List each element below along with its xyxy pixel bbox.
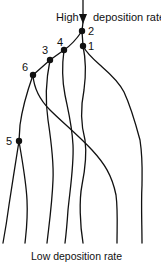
deposition-rate-label: deposition rate <box>93 11 161 23</box>
branch-5-left <box>3 141 19 243</box>
node-2-label: 2 <box>88 25 94 37</box>
branch-6-to-5 <box>19 75 33 141</box>
branch-4 <box>63 50 74 243</box>
node-1 <box>80 43 86 49</box>
branch-6-crossing <box>33 75 117 243</box>
branch-1-right <box>83 46 142 243</box>
node-1-label: 1 <box>88 40 94 52</box>
node-2 <box>79 28 85 34</box>
high-label: High <box>56 11 79 23</box>
deposition-tree-diagram: High deposition rate 2 1 4 3 6 5 Low dep… <box>0 0 161 264</box>
node-4-label: 4 <box>57 36 63 48</box>
node-5 <box>16 138 22 144</box>
node-3-label: 3 <box>42 44 48 56</box>
node-5-label: 5 <box>6 135 12 147</box>
low-deposition-label: Low deposition rate <box>31 250 122 262</box>
branch-3 <box>46 60 53 243</box>
branch-5-right <box>19 141 27 243</box>
node-6 <box>30 72 36 78</box>
branch-1-center <box>80 46 86 243</box>
node-6-label: 6 <box>22 61 28 73</box>
node-3 <box>47 57 53 63</box>
